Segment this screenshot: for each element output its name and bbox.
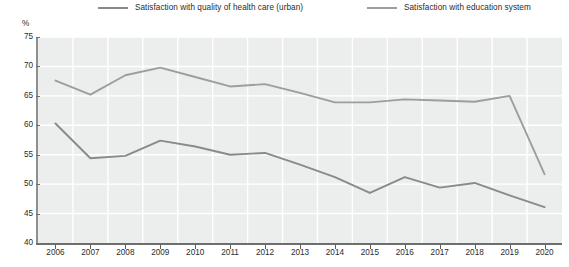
x-tick-mark	[55, 245, 56, 249]
x-tick-label: 2010	[178, 248, 212, 257]
y-tick-mark	[36, 214, 40, 215]
y-tick-mark	[36, 184, 40, 185]
x-tick-mark	[510, 245, 511, 249]
legend-label-health-care: Satisfaction with quality of health care…	[135, 3, 303, 13]
y-tick-label: 60	[3, 120, 33, 129]
x-tick-label: 2007	[73, 248, 107, 257]
legend-item-health-care: Satisfaction with quality of health care…	[98, 3, 303, 13]
y-tick-label: 55	[3, 150, 33, 159]
y-tick-mark	[36, 155, 40, 156]
plot-area	[38, 37, 562, 243]
x-axis-line	[36, 243, 562, 245]
y-tick-mark	[36, 125, 40, 126]
x-tick-label: 2009	[143, 248, 177, 257]
x-tick-mark	[335, 245, 336, 249]
legend-item-education: Satisfaction with education system	[367, 3, 531, 13]
y-tick-mark	[36, 96, 40, 97]
x-axis-labels: 2006200720082009201020112012201320142015…	[0, 248, 569, 264]
y-tick-label: 70	[3, 61, 33, 70]
y-axis-labels: 4045505560657075	[0, 0, 33, 267]
x-tick-label: 2011	[213, 248, 247, 257]
x-tick-mark	[405, 245, 406, 249]
y-tick-mark	[36, 37, 40, 38]
x-tick-mark	[370, 245, 371, 249]
series-line-education	[55, 68, 544, 175]
chart-legend: Satisfaction with quality of health care…	[0, 0, 569, 20]
y-tick-label: 75	[3, 32, 33, 41]
y-tick-label: 40	[3, 238, 33, 247]
x-tick-label: 2008	[108, 248, 142, 257]
x-tick-mark	[545, 245, 546, 249]
x-tick-label: 2019	[493, 248, 527, 257]
x-tick-label: 2020	[528, 248, 562, 257]
y-tick-label: 45	[3, 209, 33, 218]
chart-svg	[38, 37, 562, 243]
x-tick-label: 2017	[423, 248, 457, 257]
legend-swatch-education	[367, 7, 397, 9]
x-tick-mark	[125, 245, 126, 249]
y-tick-label: 65	[3, 91, 33, 100]
legend-label-education: Satisfaction with education system	[404, 3, 531, 13]
legend-swatch-health-care	[98, 7, 128, 9]
x-tick-label: 2006	[38, 248, 72, 257]
x-tick-label: 2012	[248, 248, 282, 257]
x-tick-mark	[195, 245, 196, 249]
x-tick-label: 2016	[388, 248, 422, 257]
y-tick-mark	[36, 66, 40, 67]
y-tick-mark	[36, 243, 40, 244]
x-tick-label: 2018	[458, 248, 492, 257]
x-tick-mark	[265, 245, 266, 249]
x-tick-mark	[230, 245, 231, 249]
x-tick-mark	[440, 245, 441, 249]
x-tick-mark	[90, 245, 91, 249]
x-tick-mark	[300, 245, 301, 249]
x-tick-label: 2014	[318, 248, 352, 257]
x-tick-label: 2015	[353, 248, 387, 257]
series-line-health-care	[55, 124, 544, 208]
x-tick-mark	[475, 245, 476, 249]
chart-screenshot: Satisfaction with quality of health care…	[0, 0, 569, 267]
x-tick-mark	[160, 245, 161, 249]
x-tick-label: 2013	[283, 248, 317, 257]
y-tick-label: 50	[3, 179, 33, 188]
